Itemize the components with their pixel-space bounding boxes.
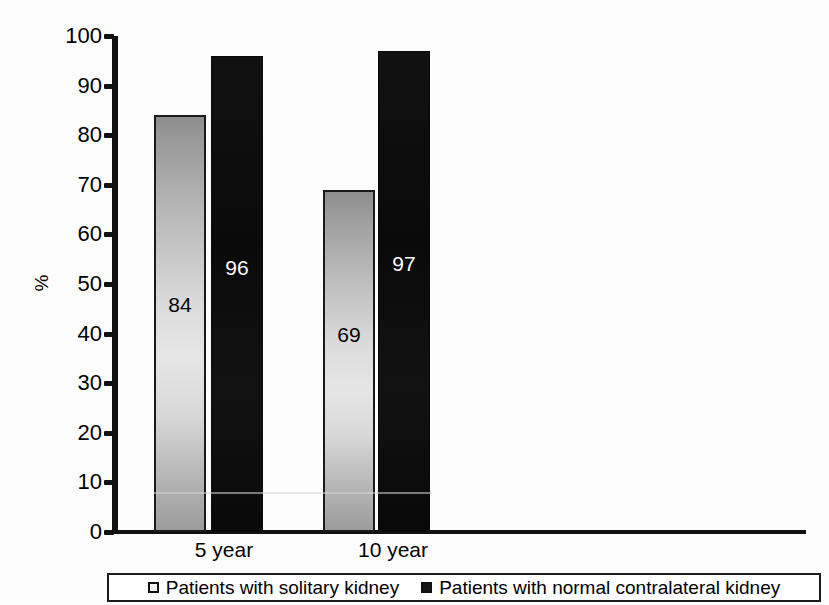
chart-legend: Patients with solitary kidneyPatients wi… — [107, 573, 821, 602]
y-tick-label-row: 80 — [0, 124, 102, 146]
bar-value-label: 84 — [156, 294, 204, 315]
bar-value-label: 96 — [212, 257, 262, 278]
y-tick-label: 30 — [0, 372, 102, 394]
y-tick-label-row: 50 — [0, 273, 102, 295]
y-tick-label: 10 — [0, 471, 102, 493]
y-tick-label: 40 — [0, 323, 102, 345]
y-tick-label: 80 — [0, 124, 102, 146]
legend-entry-0[interactable]: Patients with solitary kidney — [148, 578, 399, 597]
y-tick-label-row: 90 — [0, 75, 102, 97]
y-tick-label: 60 — [0, 223, 102, 245]
y-tick-label-row: 0 — [0, 521, 102, 543]
bar-dark-97[interactable]: 97 — [378, 51, 430, 532]
y-tick-label-row: 10 — [0, 471, 102, 493]
bar-light-69[interactable]: 69 — [323, 190, 375, 532]
y-tick-label-row: 100 — [0, 25, 102, 47]
y-tick-label-row: 30 — [0, 372, 102, 394]
bar-chart-figure: % 1009080706050403020100 84966997 5 year… — [0, 0, 829, 605]
x-category-label-1: 10 year — [323, 538, 463, 562]
y-tick-label-row: 20 — [0, 422, 102, 444]
bar-value-label: 97 — [379, 253, 429, 274]
y-tick-label: 70 — [0, 174, 102, 196]
plot-area: 84966997 — [112, 36, 806, 532]
y-tick-label: 100 — [0, 25, 102, 47]
legend-label: Patients with solitary kidney — [166, 578, 399, 597]
y-tick-label: 90 — [0, 75, 102, 97]
x-category-label-0: 5 year — [154, 538, 294, 562]
legend-entry-1[interactable]: Patients with normal contralateral kidne… — [421, 578, 780, 597]
y-tick-label-row: 70 — [0, 174, 102, 196]
legend-swatch-dark-icon — [421, 582, 432, 593]
bar-dark-96[interactable]: 96 — [211, 56, 263, 532]
legend-swatch-light-icon — [148, 582, 159, 593]
bar-value-label: 69 — [325, 324, 373, 345]
legend-label: Patients with normal contralateral kidne… — [439, 578, 780, 597]
y-tick-label-row: 40 — [0, 323, 102, 345]
y-tick-label: 0 — [0, 521, 102, 543]
bar-light-84[interactable]: 84 — [154, 115, 206, 532]
y-tick-label-row: 60 — [0, 223, 102, 245]
y-tick-label: 50 — [0, 273, 102, 295]
y-tick-label: 20 — [0, 422, 102, 444]
